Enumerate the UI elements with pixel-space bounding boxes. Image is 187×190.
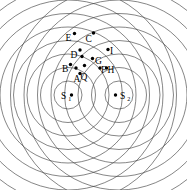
point-dot: [80, 55, 83, 58]
point-label: Q: [81, 72, 88, 82]
point-label: G: [95, 56, 102, 66]
point-dot: [83, 64, 86, 67]
source-label-subscript: 1: [68, 96, 71, 102]
point-dot: [91, 57, 94, 60]
point-dot: [74, 66, 77, 69]
interference-point: [80, 55, 83, 58]
point-label: E: [66, 33, 72, 43]
point-label: I: [110, 46, 113, 56]
point-label: B: [62, 64, 68, 74]
point-label: C: [86, 34, 92, 44]
source-label: S: [120, 91, 125, 101]
source-label: S: [61, 91, 66, 101]
source-label-subscript: 2: [127, 96, 130, 102]
point-label: F: [101, 65, 106, 75]
point-dot: [69, 63, 72, 66]
point-dot: [73, 32, 76, 35]
point-label: A: [74, 74, 81, 84]
wave-pattern-canvas: S1S2ABCDEFGHIQ: [0, 0, 187, 190]
point-label: D: [71, 50, 78, 60]
interference-figure: S1S2ABCDEFGHIQ: [0, 0, 187, 190]
figure-background: [0, 0, 187, 190]
point-label: H: [108, 65, 115, 75]
point-dot: [78, 48, 81, 51]
point-dot: [92, 31, 95, 34]
interference-point: [74, 66, 77, 69]
source-dot: [114, 93, 117, 96]
